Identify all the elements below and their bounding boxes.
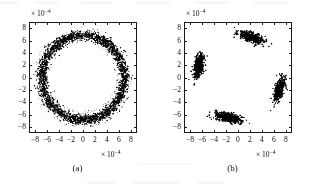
tick-mark: [289, 41, 292, 42]
panel-b-y-tick-8: 8: [165, 23, 181, 32]
tick-mark: [289, 127, 292, 128]
panel-b-y-tick-6: 6: [165, 36, 181, 45]
tick-mark: [95, 130, 96, 133]
tick-mark: [29, 90, 32, 91]
tick-mark: [184, 115, 187, 116]
tick-mark: [289, 78, 292, 79]
panel-a-scatter-canvas: [30, 23, 136, 132]
panel-b-x-multiplier-text: × 10: [256, 150, 270, 159]
tick-mark: [214, 130, 215, 133]
panel-b: × 10−4 86420−2−4−6−8 −8−6−4−202468 × 10−…: [155, 0, 310, 187]
tick-mark: [250, 22, 251, 25]
panel-b-y-multiplier-exponent: −4: [200, 8, 206, 14]
tick-mark: [29, 53, 32, 54]
panel-a-x-tick-8: 8: [124, 135, 138, 144]
panel-a-caption: (a): [0, 163, 155, 173]
panel-b-y-tick-neg2: −2: [165, 85, 181, 94]
tick-mark: [29, 102, 32, 103]
tick-mark: [202, 130, 203, 133]
panel-a-y-tick-0: 0: [10, 73, 26, 82]
panel-b-x-multiplier: × 10−4: [256, 150, 276, 159]
tick-mark: [226, 22, 227, 25]
tick-mark: [71, 22, 72, 25]
tick-mark: [214, 22, 215, 25]
tick-mark: [29, 127, 32, 128]
panel-b-y-multiplier: × 10−4: [186, 9, 206, 18]
panel-b-caption: (b): [155, 163, 310, 173]
tick-mark: [289, 53, 292, 54]
tick-mark: [184, 90, 187, 91]
panel-b-y-tick-0: 0: [165, 73, 181, 82]
tick-mark: [47, 130, 48, 133]
tick-mark: [29, 115, 32, 116]
panel-a-y-tick-neg4: −4: [10, 97, 26, 106]
tick-mark: [289, 115, 292, 116]
tick-mark: [238, 130, 239, 133]
panel-b-y-tick-4: 4: [165, 48, 181, 57]
tick-mark: [59, 22, 60, 25]
tick-mark: [29, 78, 32, 79]
tick-mark: [134, 78, 137, 79]
panel-a-y-multiplier: × 10−4: [31, 9, 51, 18]
tick-mark: [95, 22, 96, 25]
panel-a-y-multiplier-exponent: −4: [45, 8, 51, 14]
tick-mark: [29, 65, 32, 66]
panel-a-y-tick-4: 4: [10, 48, 26, 57]
tick-mark: [274, 130, 275, 133]
tick-mark: [238, 22, 239, 25]
panel-a-y-tick-2: 2: [10, 60, 26, 69]
tick-mark: [134, 127, 137, 128]
panel-a: × 10−4 86420−2−4−6−8 −8−6−4−202468 × 10−…: [0, 0, 155, 187]
panel-b-scatter-canvas: [185, 23, 291, 132]
panel-a-x-multiplier-exponent: −4: [115, 149, 121, 155]
tick-mark: [131, 130, 132, 133]
tick-mark: [289, 102, 292, 103]
tick-mark: [286, 22, 287, 25]
tick-mark: [184, 127, 187, 128]
tick-mark: [47, 22, 48, 25]
panel-a-y-tick-6: 6: [10, 36, 26, 45]
panel-a-y-multiplier-text: × 10: [31, 9, 45, 18]
tick-mark: [274, 22, 275, 25]
panel-b-x-tick-8: 8: [279, 135, 293, 144]
tick-mark: [190, 22, 191, 25]
tick-mark: [35, 130, 36, 133]
panel-a-y-tick-8: 8: [10, 23, 26, 32]
tick-mark: [262, 130, 263, 133]
tick-mark: [83, 22, 84, 25]
tick-mark: [83, 130, 84, 133]
panel-b-x-multiplier-exponent: −4: [270, 149, 276, 155]
tick-mark: [184, 28, 187, 29]
tick-mark: [250, 130, 251, 133]
tick-mark: [107, 130, 108, 133]
panel-b-y-tick-neg4: −4: [165, 97, 181, 106]
panel-b-y-tick-neg6: −6: [165, 110, 181, 119]
tick-mark: [286, 130, 287, 133]
tick-mark: [289, 28, 292, 29]
tick-mark: [134, 102, 137, 103]
tick-mark: [134, 90, 137, 91]
tick-mark: [134, 65, 137, 66]
tick-mark: [184, 78, 187, 79]
panel-a-x-multiplier: × 10−4: [101, 150, 121, 159]
tick-mark: [134, 115, 137, 116]
panel-b-y-tick-2: 2: [165, 60, 181, 69]
tick-mark: [184, 41, 187, 42]
panel-a-y-tick-neg6: −6: [10, 110, 26, 119]
panel-a-plot-area: [29, 22, 137, 133]
tick-mark: [289, 90, 292, 91]
panel-a-y-tick-neg8: −8: [10, 122, 26, 131]
tick-mark: [59, 130, 60, 133]
tick-mark: [29, 28, 32, 29]
tick-mark: [134, 28, 137, 29]
tick-mark: [184, 53, 187, 54]
tick-mark: [29, 41, 32, 42]
panel-a-y-tick-neg2: −2: [10, 85, 26, 94]
tick-mark: [134, 53, 137, 54]
tick-mark: [202, 22, 203, 25]
tick-mark: [119, 22, 120, 25]
panel-b-y-tick-neg8: −8: [165, 122, 181, 131]
tick-mark: [131, 22, 132, 25]
figure-two-panel-constellation: × 10−4 86420−2−4−6−8 −8−6−4−202468 × 10−…: [0, 0, 310, 187]
tick-mark: [190, 130, 191, 133]
